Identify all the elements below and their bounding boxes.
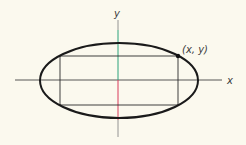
background (0, 0, 246, 145)
point-label: (x, y) (182, 44, 208, 55)
x-axis-label: x (226, 75, 233, 86)
point-marker (176, 54, 180, 58)
y-axis-label: y (113, 8, 121, 19)
ellipse-inscribed-rectangle-diagram: (x, y) x y (0, 0, 246, 145)
